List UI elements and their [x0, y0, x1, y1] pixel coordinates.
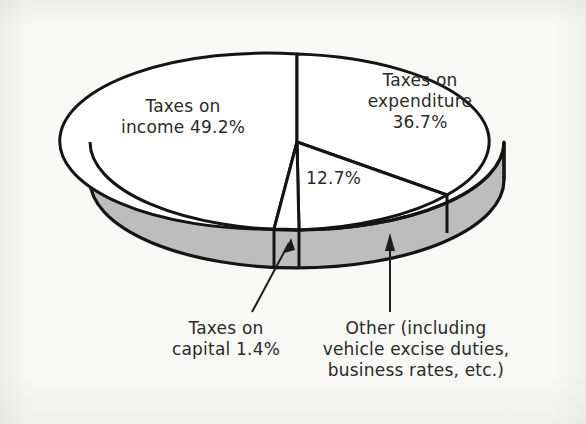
callout-label-other: Other (including vehicle excise duties, … [300, 318, 532, 381]
slice-label-taxes-on-expenditure: Taxes on expenditure 36.7% [336, 70, 504, 133]
callout-label-taxes-on-capital: Taxes on capital 1.4% [140, 318, 312, 360]
slice-label-taxes-on-income: Taxes on income 49.2% [98, 96, 268, 138]
pie-chart-figure: Taxes on income 49.2% Taxes on expenditu… [0, 0, 586, 424]
slice-label-other-percent: 12.7% [306, 168, 402, 189]
